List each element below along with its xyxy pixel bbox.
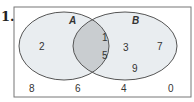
b-only-element: 7 xyxy=(157,41,163,52)
a-only-element: 2 xyxy=(39,41,45,52)
outside-element: 8 xyxy=(29,83,35,94)
outside-element: 0 xyxy=(168,83,174,94)
b-only-element: 3 xyxy=(123,42,129,53)
venn-diagram: A B 2 1 5 3 7 9 8 6 4 0 xyxy=(0,0,194,102)
b-only-element: 9 xyxy=(132,63,138,74)
set-a-label: A xyxy=(68,15,76,26)
outside-element: 4 xyxy=(121,83,127,94)
set-b-label: B xyxy=(132,15,139,26)
intersection-element: 5 xyxy=(102,50,108,61)
outside-element: 6 xyxy=(75,83,81,94)
intersection-element: 1 xyxy=(102,32,108,43)
